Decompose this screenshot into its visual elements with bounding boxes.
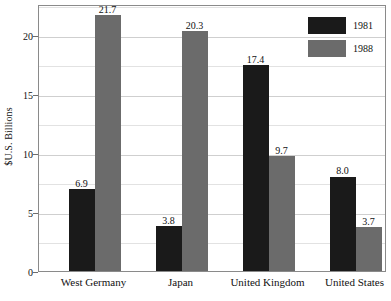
y-axis-tick-label: 10 [23,148,33,159]
bar-1988-united-states [356,227,382,271]
legend-swatch-1988 [308,40,346,57]
bar-1981-japan [156,226,182,271]
y-axis-tickmark [33,213,38,214]
x-axis-label-united-kingdom: United Kingdom [230,276,304,288]
bar-1988-united-kingdom [269,156,295,271]
y-axis-tickmark [33,95,38,96]
bar-value-label: 3.7 [362,216,375,227]
bar-1988-japan [182,31,208,271]
bar-value-label: 9.7 [275,145,288,156]
legend-item-1981: 1981 [308,17,373,34]
plot-area: 6.921.73.820.317.49.78.03.7 1981 1988 [38,5,386,272]
bar-value-label: 6.9 [75,178,88,189]
y-axis-tickmark [33,272,38,273]
y-axis-title-text: $U.S. Billions [3,107,14,165]
bar-1981-united-kingdom [243,65,269,271]
bar-1981-united-states [330,177,356,272]
bar-value-label: 21.7 [99,4,117,15]
legend-label-1988: 1988 [353,43,373,54]
y-axis-tick-labels: 05101520 [14,0,36,301]
y-axis-tick-label: 20 [23,30,33,41]
x-axis-label-united-states: United States [325,276,384,288]
x-axis-category-labels: West GermanyJapanUnited KingdomUnited St… [38,276,386,298]
x-axis-label-japan: Japan [168,276,193,288]
legend-label-1981: 1981 [353,20,373,31]
x-axis-label-west-germany: West Germany [61,276,126,288]
bar-1988-west-germany [95,15,121,271]
y-axis-tickmark [33,36,38,37]
bar-value-label: 3.8 [162,215,175,226]
legend-swatch-1981 [308,17,346,34]
legend: 1981 1988 [304,14,377,60]
legend-item-1988: 1988 [308,40,373,57]
bar-value-label: 20.3 [186,20,204,31]
bar-1981-west-germany [69,189,95,271]
bar-chart: $U.S. Billions 05101520 6.921.73.820.317… [0,0,391,301]
y-axis-tick-label: 15 [23,89,33,100]
bar-value-label: 8.0 [336,165,349,176]
bar-value-label: 17.4 [247,54,265,65]
y-axis-tickmark [33,154,38,155]
